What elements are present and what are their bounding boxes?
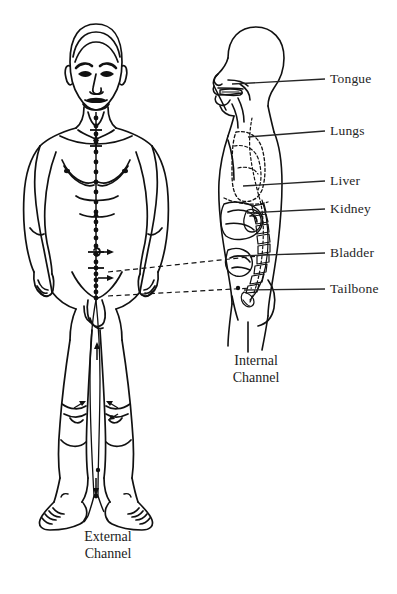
organ-label-bladder: Bladder: [330, 246, 374, 260]
internal-channel-caption: Internal Channel: [196, 352, 316, 386]
organ-label-liver: Liver: [330, 174, 360, 188]
organ-label-tailbone: Tailbone: [330, 282, 379, 296]
external-caption-line2: Channel: [48, 545, 168, 562]
external-channel-caption: External Channel: [48, 528, 168, 562]
external-channel-line: [74, 112, 118, 522]
diagram-artwork: [0, 0, 397, 594]
internal-caption-line2: Channel: [196, 369, 316, 386]
channel-diagram: Tongue Lungs Liver Kidney Bladder Tailbo…: [0, 0, 397, 594]
spine: [241, 200, 270, 307]
leader-line-lungs: [248, 131, 325, 137]
organ-label-tongue: Tongue: [330, 72, 372, 86]
leader-line-bladder: [238, 253, 325, 256]
external-caption-line1: External: [48, 528, 168, 545]
connector-upper: [108, 256, 258, 272]
internal-figure: [213, 27, 284, 352]
organ-label-kidney: Kidney: [330, 202, 371, 216]
leader-line-tailbone: [244, 289, 325, 290]
internal-caption-line1: Internal: [196, 352, 316, 369]
organ-label-lungs: Lungs: [330, 124, 365, 138]
